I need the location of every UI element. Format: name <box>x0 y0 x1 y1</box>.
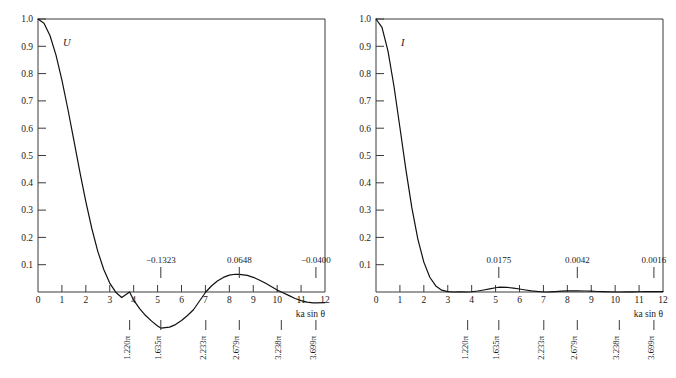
x-axis-tick-label: 8 <box>565 295 570 305</box>
x-axis-tick-label: 3 <box>445 295 450 305</box>
intensity-plot-svg: 1.00.90.80.70.60.50.40.30.20.10123456789… <box>338 0 676 378</box>
x-axis-title: ka sin θ <box>634 309 664 319</box>
x-axis-tick-label: 7 <box>541 295 546 305</box>
panel-intensity: 1.00.90.80.70.60.50.40.30.20.10123456789… <box>338 0 676 378</box>
x-axis-tick-label: 0 <box>374 295 379 305</box>
x-axis-tick-label: 1 <box>398 295 403 305</box>
diffraction-figure: 1.00.90.80.70.60.50.40.30.20.10123456789… <box>0 0 676 378</box>
plot-frame <box>376 19 663 292</box>
y-axis-tick-label: 1.0 <box>359 14 371 24</box>
y-axis-tick-label: 0.8 <box>359 69 371 79</box>
x-axis-tick-label: 6 <box>179 295 184 305</box>
y-axis-tick-label: 0.2 <box>359 233 371 243</box>
x-axis-tick-label: 1 <box>60 295 65 305</box>
pi-tick-label: 1.220π <box>460 335 470 359</box>
y-axis-tick-label: 0.2 <box>21 233 33 243</box>
y-axis-tick-label: 1.0 <box>21 14 33 24</box>
y-axis-tick-label: 0.1 <box>359 260 371 270</box>
pi-tick-label: 1.635π <box>153 335 163 359</box>
x-axis-tick-label: 9 <box>251 295 256 305</box>
y-axis-tick-label: 0.3 <box>359 205 371 215</box>
annotation-value-label: 0.0648 <box>227 255 252 265</box>
pi-tick-label: 3.699π <box>308 335 318 359</box>
data-curve <box>38 19 325 328</box>
pi-tick-label: 3.238π <box>611 335 621 359</box>
x-axis-tick-label: 8 <box>227 295 232 305</box>
x-axis-tick-label: 12 <box>320 295 330 305</box>
y-axis-tick-label: 0.1 <box>21 260 33 270</box>
x-axis-tick-label: 10 <box>610 295 620 305</box>
x-axis-tick-label: 5 <box>493 295 498 305</box>
x-axis-tick-label: 10 <box>272 295 282 305</box>
annotation-value-label: 0.0016 <box>642 255 667 265</box>
y-axis-tick-label: 0.4 <box>359 178 371 188</box>
x-axis-tick-label: 4 <box>469 295 474 305</box>
x-axis-tick-label: 0 <box>36 295 41 305</box>
annotation-value-label: −0.0400 <box>301 255 331 265</box>
y-axis-tick-label: 0.6 <box>359 124 371 134</box>
x-axis-title: ka sin θ <box>296 309 326 319</box>
x-axis-tick-label: 2 <box>83 295 88 305</box>
pi-tick-label: 2.679π <box>231 335 241 359</box>
pi-tick-label: 3.699π <box>646 335 656 359</box>
y-axis-tick-label: 0.6 <box>21 124 33 134</box>
pi-tick-label: 2.233π <box>536 335 546 359</box>
x-axis-tick-label: 2 <box>421 295 426 305</box>
annotation-value-label: −0.1323 <box>146 255 176 265</box>
amplitude-plot-svg: 1.00.90.80.70.60.50.40.30.20.10123456789… <box>0 0 338 378</box>
pi-tick-label: 1.220π <box>122 335 132 359</box>
plot-frame <box>38 19 325 292</box>
x-axis-tick-label: 9 <box>589 295 594 305</box>
pi-tick-label: 2.679π <box>569 335 579 359</box>
y-axis-tick-label: 0.4 <box>21 178 33 188</box>
x-axis-tick-label: 6 <box>517 295 522 305</box>
y-axis-tick-label: 0.7 <box>21 96 33 106</box>
data-curve <box>376 19 663 292</box>
y-axis-tick-label: 0.8 <box>21 69 33 79</box>
pi-tick-label: 3.238π <box>273 335 283 359</box>
curve-label: U <box>63 37 72 48</box>
y-axis-tick-label: 0.7 <box>359 96 371 106</box>
y-axis-tick-label: 0.5 <box>359 151 371 161</box>
x-axis-tick-label: 3 <box>107 295 112 305</box>
pi-tick-label: 1.635π <box>491 335 501 359</box>
x-axis-tick-label: 11 <box>635 295 644 305</box>
annotation-value-label: 0.0175 <box>486 255 511 265</box>
x-axis-tick-label: 12 <box>658 295 668 305</box>
panel-amplitude: 1.00.90.80.70.60.50.40.30.20.10123456789… <box>0 0 338 378</box>
y-axis-tick-label: 0.9 <box>359 42 371 52</box>
annotation-value-label: 0.0042 <box>565 255 590 265</box>
y-axis-tick-label: 0.9 <box>21 42 33 52</box>
curve-label: I <box>400 37 405 48</box>
y-axis-tick-label: 0.3 <box>21 205 33 215</box>
x-axis-tick-label: 7 <box>203 295 208 305</box>
y-axis-tick-label: 0.5 <box>21 151 33 161</box>
x-axis-tick-label: 5 <box>155 295 160 305</box>
pi-tick-label: 2.233π <box>198 335 208 359</box>
